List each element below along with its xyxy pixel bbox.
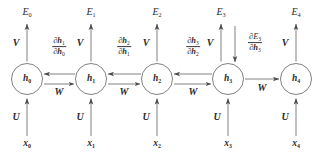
error-gradient-fraction-3: ∂E3 ∂h3 (248, 33, 262, 53)
input-label-3: x3 (224, 139, 232, 149)
recurrent-weight-label-1-2: W (120, 87, 129, 97)
input-label-4: x4 (292, 139, 300, 149)
input-weight-label-1: U (76, 112, 83, 122)
input-weight-label-0: U (12, 112, 19, 122)
hidden-node-label-3: h3 (224, 74, 232, 84)
output-label-0: E0 (22, 7, 31, 17)
recurrent-weight-label-3-4: W (258, 83, 267, 93)
hidden-node-label-1: h1 (87, 74, 95, 84)
hidden-node-label-0: h0 (23, 74, 31, 84)
output-label-3: E3 (216, 7, 225, 17)
recurrent-gradient-fraction-1-2: ∂h2 ∂h1 (117, 37, 131, 57)
hidden-node-label-4: h4 (292, 74, 300, 84)
output-weight-label-1: V (77, 38, 84, 48)
recurrent-weight-label-2-3: W (189, 87, 198, 97)
input-weight-label-4: U (281, 112, 288, 122)
output-weight-label-2: V (143, 38, 150, 48)
input-label-0: x0 (23, 139, 31, 149)
input-weight-label-3: U (213, 112, 220, 122)
output-label-1: E1 (86, 7, 95, 17)
recurrent-gradient-fraction-2-3: ∂h3 ∂h2 (186, 37, 200, 57)
hidden-node-label-2: h2 (153, 74, 161, 84)
output-weight-label-0: V (13, 38, 20, 48)
recurrent-weight-label-0-1: W (55, 87, 64, 97)
output-weight-label-4: V (282, 38, 289, 48)
output-weight-label-3: V (207, 38, 214, 48)
output-label-2: E2 (152, 7, 161, 17)
recurrent-gradient-fraction-0-1: ∂h1 ∂h0 (52, 37, 66, 57)
rnn-bptt-diagram: E0 E1 E2 E3 E4 V V V V V ∂E3 ∂h3 ∂h1 ∂h0… (0, 0, 316, 155)
output-label-4: E4 (291, 7, 300, 17)
input-label-1: x1 (87, 139, 95, 149)
input-weight-label-2: U (142, 112, 149, 122)
input-label-2: x2 (153, 139, 161, 149)
